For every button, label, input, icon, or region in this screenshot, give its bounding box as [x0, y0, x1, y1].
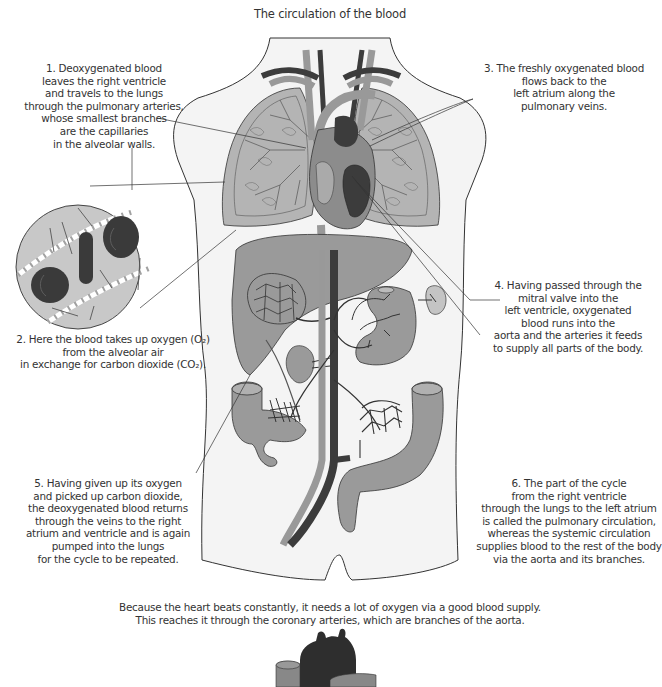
caption-line: pulmonary veins.	[474, 100, 654, 113]
red-blood-cell	[31, 267, 69, 303]
caption-line: left atrium along the	[474, 87, 654, 100]
caption-line: whereas the systemic circulation	[476, 527, 662, 540]
red-blood-cell-side	[79, 232, 93, 284]
caption-line: supplies blood to the rest of the body	[476, 540, 662, 553]
footer-line: Because the heart beats constantly, it n…	[0, 601, 660, 614]
caption-line: are the capillaries	[4, 125, 204, 138]
caption-line: in exchange for carbon dioxide (CO₂).	[4, 358, 222, 371]
caption-line: whose smallest branches	[4, 112, 204, 125]
caption-line: through the lungs to the left atrium	[476, 502, 662, 515]
caption-line: via the aorta and its branches.	[476, 553, 662, 566]
caption-line: mitral valve into the	[478, 292, 658, 305]
caption-line: flows back to the	[474, 75, 654, 88]
footer-note: Because the heart beats constantly, it n…	[0, 601, 660, 627]
caption-line: aorta and the arteries it feeds	[478, 329, 658, 342]
caption-line: and picked up carbon dioxide,	[10, 490, 206, 503]
alveolus-magnified	[16, 205, 150, 329]
caption-line: 5. Having given up its oxygen	[10, 477, 206, 490]
caption-line: in the alveolar walls.	[4, 138, 204, 151]
caption-line: pumped into the lungs	[10, 540, 206, 553]
caption-line: from the right ventricle	[476, 490, 662, 503]
caption-line: 3. The freshly oxygenated blood	[474, 62, 654, 75]
caption-line: is called the pulmonary circulation,	[476, 515, 662, 528]
red-blood-cell	[103, 216, 139, 258]
caption-line: for the cycle to be repeated.	[10, 553, 206, 566]
caption-line: leaves the right ventricle	[4, 75, 204, 88]
caption-line: through the veins to the right	[10, 515, 206, 528]
caption-line: to supply all parts of the body.	[478, 342, 658, 355]
caption-line: through the pulmonary arteries,	[4, 100, 204, 113]
caption-line: 4. Having passed through the	[478, 279, 658, 292]
caption-line: the deoxygenated blood returns	[10, 502, 206, 515]
caption-line: 2. Here the blood takes up oxygen (O₂)	[4, 333, 222, 346]
caption-step-2: 2. Here the blood takes up oxygen (O₂) f…	[4, 333, 222, 371]
caption-line: and travels to the lungs	[4, 87, 204, 100]
caption-line: 6. The part of the cycle	[476, 477, 662, 490]
caption-step-1: 1. Deoxygenated blood leaves the right v…	[4, 62, 204, 150]
caption-line: from the alveolar air	[4, 346, 222, 359]
caption-line: atrium and ventricle and is again	[10, 527, 206, 540]
caption-step-4: 4. Having passed through the mitral valv…	[478, 279, 658, 355]
caption-line: blood runs into the	[478, 317, 658, 330]
caption-step-5: 5. Having given up its oxygen and picked…	[10, 477, 206, 565]
caption-step-3: 3. The freshly oxygenated blood flows ba…	[474, 62, 654, 112]
footer-line: This reaches it through the coronary art…	[0, 614, 660, 627]
caption-line: 1. Deoxygenated blood	[4, 62, 204, 75]
caption-line: left ventricle, oxygenated	[478, 304, 658, 317]
coronary-heart	[276, 629, 376, 687]
caption-step-6: 6. The part of the cycle from the right …	[476, 477, 662, 565]
